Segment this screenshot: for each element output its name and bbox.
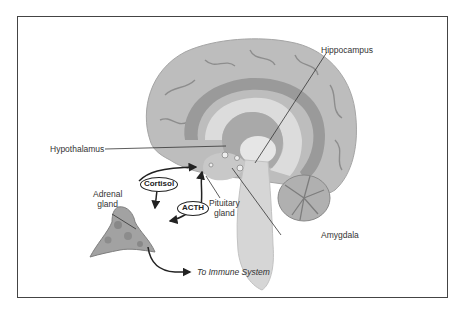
label-immune-system: To Immune System — [197, 267, 270, 277]
adrenal-line2: gland — [93, 199, 122, 209]
pituitary-line2: gland — [209, 208, 240, 218]
hormone-cortisol: Cortisol — [140, 177, 178, 192]
label-amygdala: Amygdala — [321, 230, 359, 240]
hormone-acth: ACTH — [177, 201, 209, 216]
label-pituitary: Pituitary gland — [209, 198, 240, 218]
label-hippocampus: Hippocampus — [321, 45, 373, 55]
pituitary-line1: Pituitary — [209, 198, 240, 208]
label-adrenal: Adrenal gland — [93, 189, 122, 209]
adrenal-line1: Adrenal — [93, 189, 122, 199]
adrenal-gland — [90, 207, 155, 257]
label-hypothalamus: Hypothalamus — [50, 144, 104, 154]
